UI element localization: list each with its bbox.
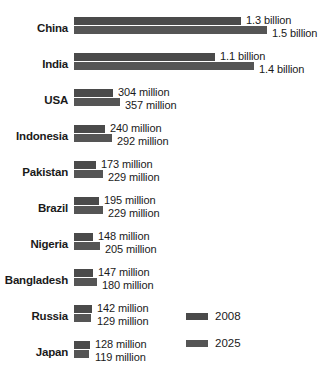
value-label-2025: 357 million [125, 99, 176, 112]
row-category-label: India [0, 57, 68, 71]
chart-row: China 1.3 billion 1.5 billion [0, 14, 326, 44]
value-label-2008: 128 million [95, 338, 146, 351]
bar-group [74, 233, 100, 250]
row-value-labels: 1.3 billion 1.5 billion [246, 14, 291, 39]
value-label-2025: 1.4 billion [259, 63, 304, 76]
bar-group [74, 269, 97, 286]
row-value-labels: 147 million 180 million [98, 266, 149, 291]
value-label-2025: 205 million [105, 243, 156, 256]
legend-swatch-icon-2025 [186, 340, 208, 347]
row-category-label: China [0, 21, 68, 35]
bar-2008 [74, 233, 93, 241]
bar-group [74, 197, 103, 214]
row-category-label: Indonesia [0, 129, 68, 143]
value-label-2025: 129 million [97, 315, 148, 328]
value-label-2008: 195 million [104, 194, 155, 207]
bar-2025 [74, 134, 112, 142]
row-value-labels: 195 million 229 million [104, 194, 155, 219]
chart-row: USA 304 million 357 million [0, 86, 326, 116]
chart-row: Bangladesh 147 million 180 million [0, 266, 326, 296]
bar-2008 [74, 305, 92, 313]
value-label-2025: 180 million [102, 279, 153, 292]
bar-group [74, 17, 267, 34]
bar-2008 [74, 161, 96, 169]
value-label-2008: 240 million [110, 122, 161, 135]
value-label-2008: 173 million [101, 158, 152, 171]
bar-2008 [74, 125, 105, 133]
value-label-2008: 142 million [97, 302, 148, 315]
bar-group [74, 161, 103, 178]
value-label-2025: 292 million [117, 135, 168, 148]
row-category-label: Brazil [0, 201, 68, 215]
bar-2008 [74, 197, 99, 205]
bar-2025 [74, 170, 103, 178]
row-value-labels: 173 million 229 million [101, 158, 152, 183]
chart-row: Indonesia 240 million 292 million [0, 122, 326, 152]
row-value-labels: 240 million 292 million [110, 122, 161, 147]
bar-2008 [74, 341, 90, 349]
bar-2008 [74, 53, 215, 61]
bar-2025 [74, 98, 120, 106]
chart-row: Pakistan 173 million 229 million [0, 158, 326, 188]
value-label-2025: 229 million [108, 207, 159, 220]
row-value-labels: 1.1 billion 1.4 billion [220, 50, 265, 75]
population-bar-chart: China 1.3 billion 1.5 billion India 1.1 … [0, 0, 326, 370]
chart-legend: 2008 2025 [186, 306, 306, 360]
legend-label-2008: 2008 [215, 310, 241, 322]
row-category-label: Bangladesh [0, 273, 68, 287]
row-category-label: Russia [0, 309, 68, 323]
value-label-2008: 304 million [118, 86, 169, 99]
bar-group [74, 89, 120, 106]
row-value-labels: 304 million 357 million [118, 86, 169, 111]
row-value-labels: 128 million 119 million [95, 338, 146, 363]
row-value-labels: 148 million 205 million [98, 230, 149, 255]
bar-2008 [74, 89, 113, 97]
chart-row: Brazil 195 million 229 million [0, 194, 326, 224]
chart-row: India 1.1 billion 1.4 billion [0, 50, 326, 80]
value-label-2025: 229 million [108, 171, 159, 184]
legend-item-2025: 2025 [186, 333, 306, 353]
bar-2025 [74, 26, 267, 34]
row-category-label: USA [0, 93, 68, 107]
chart-row: Nigeria 148 million 205 million [0, 230, 326, 260]
value-label-2025: 119 million [95, 351, 146, 364]
value-label-2008: 1.1 billion [220, 50, 265, 63]
value-label-2008: 1.3 billion [246, 14, 291, 27]
bar-group [74, 341, 90, 358]
row-category-label: Japan [0, 345, 68, 359]
row-category-label: Pakistan [0, 165, 68, 179]
bar-2025 [74, 206, 103, 214]
bar-2008 [74, 17, 241, 25]
bar-2008 [74, 269, 93, 277]
value-label-2025: 1.5 billion [272, 27, 317, 40]
bar-group [74, 305, 92, 322]
legend-swatch-icon-2008 [186, 313, 208, 320]
legend-label-2025: 2025 [215, 337, 241, 349]
row-category-label: Nigeria [0, 237, 68, 251]
bar-group [74, 125, 112, 142]
legend-item-2008: 2008 [186, 306, 306, 326]
value-label-2008: 147 million [98, 266, 149, 279]
bar-2025 [74, 350, 89, 358]
row-value-labels: 142 million 129 million [97, 302, 148, 327]
bar-2025 [74, 278, 97, 286]
value-label-2008: 148 million [98, 230, 149, 243]
bar-2025 [74, 314, 91, 322]
bar-2025 [74, 242, 100, 250]
